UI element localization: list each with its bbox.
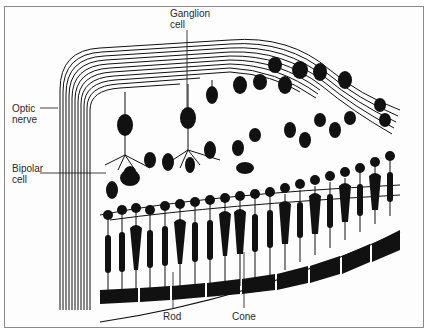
label-rod: Rod <box>163 311 181 322</box>
bipolar-cells <box>106 111 356 199</box>
label-cone: Cone <box>232 311 256 322</box>
pigment-epithelium <box>100 230 400 304</box>
retina-illustration <box>0 0 430 334</box>
label-ganglion-cell: Ganglion cell <box>170 8 210 30</box>
leader-lines <box>40 30 244 308</box>
label-optic-nerve: Optic nerve <box>12 103 37 125</box>
label-bipolar-cell: Bipolar cell <box>12 163 43 185</box>
